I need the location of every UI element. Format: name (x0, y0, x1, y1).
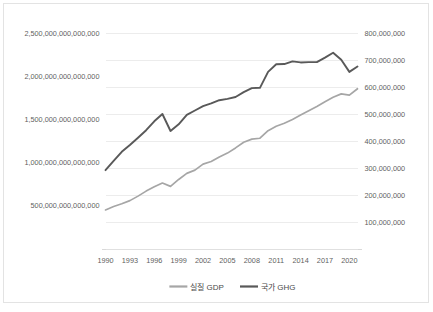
x-axis-tick-label: 2020 (341, 256, 357, 265)
series-lines (106, 53, 358, 210)
x-axis-tick-label: 2002 (195, 256, 211, 265)
y-axis-right-tick-label: 700,000,000 (365, 56, 406, 65)
y-axis-right-tick-label: 200,000,000 (365, 191, 406, 200)
x-axis-tick-label: 2011 (268, 256, 284, 265)
series-line-gdp (106, 89, 358, 210)
legend-label: 실질 GDP (190, 282, 224, 292)
x-axis-tick-label: 1993 (122, 256, 138, 265)
y-axis-right-tick-label: 800,000,000 (365, 29, 406, 38)
chart-legend: 실질 GDP국가 GHG (169, 282, 295, 292)
series-line-ghg (106, 53, 358, 170)
x-axis-tick-label: 1990 (97, 256, 113, 265)
y-axis-right-labels: 100,000,000200,000,000300,000,000400,000… (365, 29, 406, 227)
gridlines (106, 34, 358, 250)
x-axis-tick-label: 2005 (219, 256, 235, 265)
y-axis-left-tick-label: 2,500,000,000,000,000 (24, 29, 99, 38)
legend-item[interactable]: 국가 GHG (240, 283, 295, 292)
y-axis-right-tick-label: 600,000,000 (365, 83, 406, 92)
legend-label: 국가 GHG (261, 283, 295, 292)
y-axis-right-tick-label: 100,000,000 (365, 218, 406, 227)
x-axis-tick-label: 1996 (146, 256, 162, 265)
chart-container: 500,000,000,000,0001,000,000,000,000,000… (0, 0, 433, 312)
chart-plot: 500,000,000,000,0001,000,000,000,000,000… (0, 0, 433, 312)
x-axis-tick-label: 2017 (317, 256, 333, 265)
y-axis-left-labels: 500,000,000,000,0001,000,000,000,000,000… (24, 29, 99, 211)
x-axis-tick-label: 1999 (171, 256, 187, 265)
y-axis-left-tick-label: 1,000,000,000,000,000 (24, 158, 99, 167)
legend-item[interactable]: 실질 GDP (169, 282, 224, 292)
y-axis-left-tick-label: 1,500,000,000,000,000 (24, 115, 99, 124)
x-axis-labels: 1990199319961999200220052008201120142017… (97, 256, 357, 265)
y-axis-right-tick-label: 500,000,000 (365, 110, 406, 119)
y-axis-left-tick-label: 500,000,000,000,000 (31, 201, 100, 210)
x-axis-tick-label: 2014 (292, 256, 308, 265)
y-axis-left-tick-label: 2,000,000,000,000,000 (24, 72, 99, 81)
y-axis-right-tick-label: 400,000,000 (365, 137, 406, 146)
x-axis-tick-label: 2008 (244, 256, 260, 265)
y-axis-right-tick-label: 300,000,000 (365, 164, 406, 173)
